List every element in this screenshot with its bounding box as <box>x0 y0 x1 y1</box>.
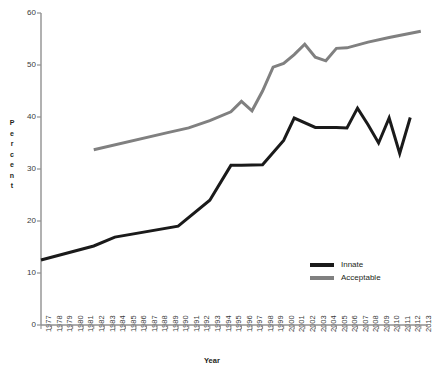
line-chart: Percent 6050403020100 197719781979198019… <box>0 0 433 370</box>
series-line-innate <box>41 108 410 260</box>
legend-label: Innate <box>341 260 363 269</box>
legend-swatch <box>310 263 334 267</box>
plot-area <box>0 0 433 370</box>
legend-swatch <box>310 276 334 280</box>
legend: InnateAcceptable <box>310 258 381 284</box>
legend-label: Acceptable <box>341 273 381 282</box>
legend-item: Innate <box>310 258 381 271</box>
legend-item: Acceptable <box>310 271 381 284</box>
